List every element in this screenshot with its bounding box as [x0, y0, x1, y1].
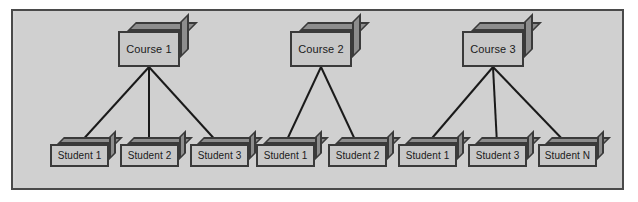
- course-label: Course 2: [298, 44, 343, 55]
- node-front-face: Student 2: [120, 144, 179, 167]
- course-label: Course 3: [470, 44, 515, 55]
- course-node-course-3[interactable]: Course 3: [462, 31, 524, 67]
- student-node-student-2-2[interactable]: Student 2: [328, 144, 387, 167]
- student-label: Student 1: [58, 151, 102, 161]
- node-front-face: Student 1: [398, 144, 457, 167]
- student-node-student-3-N[interactable]: Student N: [538, 144, 597, 167]
- student-label: Student 3: [476, 151, 520, 161]
- student-node-student-1-3[interactable]: Student 3: [190, 144, 249, 167]
- student-node-student-2-1[interactable]: Student 1: [256, 144, 315, 167]
- node-front-face: Course 1: [118, 31, 180, 67]
- course-node-course-2[interactable]: Course 2: [290, 31, 352, 67]
- node-front-face: Course 2: [290, 31, 352, 67]
- node-front-face: Student 1: [50, 144, 109, 167]
- node-front-face: Course 3: [462, 31, 524, 67]
- student-node-student-1-2[interactable]: Student 2: [120, 144, 179, 167]
- course-node-course-1[interactable]: Course 1: [118, 31, 180, 67]
- node-front-face: Student 3: [468, 144, 527, 167]
- student-node-student-3-2[interactable]: Student 3: [468, 144, 527, 167]
- student-label: Student 1: [406, 151, 450, 161]
- student-node-student-1-1[interactable]: Student 1: [50, 144, 109, 167]
- node-front-face: Student N: [538, 144, 597, 167]
- student-label: Student 1: [264, 151, 308, 161]
- diagram-canvas: Course 1Course 2Course 3Student 1Student…: [0, 0, 638, 202]
- node-front-face: Student 2: [328, 144, 387, 167]
- student-node-student-3-1[interactable]: Student 1: [398, 144, 457, 167]
- node-front-face: Student 1: [256, 144, 315, 167]
- student-label: Student 3: [198, 151, 242, 161]
- student-label: Student N: [545, 151, 590, 161]
- course-label: Course 1: [126, 44, 171, 55]
- node-front-face: Student 3: [190, 144, 249, 167]
- student-label: Student 2: [128, 151, 172, 161]
- student-label: Student 2: [336, 151, 380, 161]
